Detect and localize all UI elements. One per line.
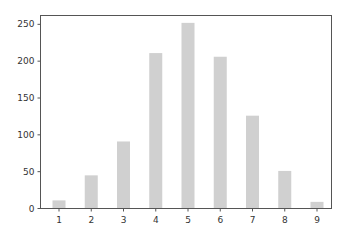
- x-tick-label: 6: [217, 215, 223, 225]
- bars-group: [53, 23, 324, 209]
- x-tick-label: 7: [250, 215, 256, 225]
- x-tick-label: 9: [314, 215, 320, 225]
- x-tick-label: 1: [56, 215, 62, 225]
- bar-1: [53, 200, 66, 208]
- bar-2: [85, 175, 98, 208]
- y-tick-label: 200: [17, 56, 34, 66]
- bar-4: [149, 53, 162, 208]
- bar-7: [246, 116, 259, 209]
- x-tick-label: 2: [88, 215, 94, 225]
- y-tick-label: 50: [23, 167, 35, 177]
- x-tick-label: 4: [153, 215, 159, 225]
- bar-5: [182, 23, 195, 209]
- bar-8: [278, 171, 291, 209]
- x-tick-label: 3: [121, 215, 127, 225]
- y-tick-label: 150: [17, 93, 34, 103]
- y-axis: 050100150200250: [17, 19, 40, 213]
- x-axis: 123456789: [56, 209, 320, 225]
- bar-chart: 050100150200250 123456789: [0, 0, 349, 236]
- y-tick-label: 0: [29, 204, 35, 214]
- bar-9: [311, 202, 324, 209]
- bar-3: [117, 141, 130, 208]
- bar-6: [214, 57, 227, 209]
- y-tick-label: 100: [17, 130, 34, 140]
- y-tick-label: 250: [17, 19, 34, 29]
- x-tick-label: 5: [185, 215, 191, 225]
- x-tick-label: 8: [282, 215, 288, 225]
